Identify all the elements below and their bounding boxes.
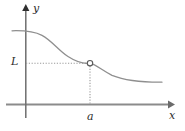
limit-value-label: L [11, 56, 18, 67]
arrow-up-icon [22, 4, 29, 11]
function-curve [12, 31, 162, 83]
arrow-right-icon [168, 101, 175, 109]
y-axis-label: y [33, 3, 39, 14]
x-value-label: a [87, 111, 94, 122]
limit-graph-figure: y x L a [0, 0, 185, 131]
open-circle-icon [87, 61, 92, 66]
x-axis-label: x [169, 110, 175, 121]
